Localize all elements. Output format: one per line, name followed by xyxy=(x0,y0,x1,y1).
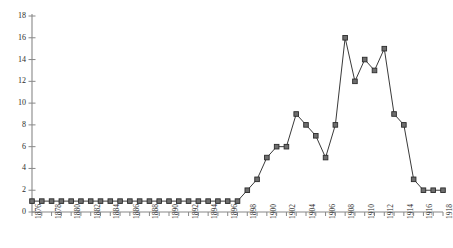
data-point-marker xyxy=(343,35,348,40)
x-tick-label: 1902 xyxy=(289,204,297,219)
data-point-marker xyxy=(98,199,103,204)
data-point-marker xyxy=(216,199,221,204)
x-tick-label: 1886 xyxy=(133,204,141,219)
y-tick-label: 16 xyxy=(6,34,26,42)
data-point-marker xyxy=(206,199,211,204)
data-point-marker xyxy=(225,199,230,204)
data-point-marker xyxy=(128,199,133,204)
x-tick-label: 1898 xyxy=(250,204,258,219)
data-point-marker xyxy=(88,199,93,204)
data-point-marker xyxy=(294,112,299,117)
data-point-marker xyxy=(382,46,387,51)
data-point-marker xyxy=(157,199,162,204)
data-point-marker xyxy=(235,199,240,204)
data-point-marker xyxy=(186,199,191,204)
x-tick-label: 1878 xyxy=(55,204,63,219)
x-tick-label: 1912 xyxy=(387,204,395,219)
data-point-marker xyxy=(108,199,113,204)
data-point-marker xyxy=(362,57,367,62)
data-point-marker xyxy=(313,133,318,138)
data-point-marker xyxy=(167,199,172,204)
data-point-marker xyxy=(39,199,44,204)
x-tick-label: 1904 xyxy=(309,204,317,219)
data-point-marker xyxy=(304,123,309,128)
x-tick-label: 1882 xyxy=(94,204,102,219)
data-point-marker xyxy=(59,199,64,204)
x-tick-label: 1876 xyxy=(35,204,43,219)
data-point-marker xyxy=(196,199,201,204)
data-point-marker xyxy=(323,155,328,160)
x-tick-label: 1906 xyxy=(329,204,337,219)
data-point-marker xyxy=(79,199,84,204)
data-point-marker xyxy=(49,199,54,204)
data-point-marker xyxy=(69,199,74,204)
data-point-marker xyxy=(333,123,338,128)
x-tick-label: 1910 xyxy=(368,204,376,219)
data-point-marker xyxy=(147,199,152,204)
line-chart: 024681012141618 187618781880188218841886… xyxy=(0,0,453,248)
x-tick-label: 1880 xyxy=(74,204,82,219)
data-point-marker xyxy=(30,199,35,204)
data-point-marker xyxy=(245,188,250,193)
y-tick-label: 2 xyxy=(6,186,26,194)
y-tick-label: 12 xyxy=(6,77,26,85)
y-tick-label: 18 xyxy=(6,12,26,20)
x-tick-label: 1916 xyxy=(426,204,434,219)
y-tick-label: 10 xyxy=(6,99,26,107)
data-point-marker xyxy=(274,144,279,149)
y-tick-label: 4 xyxy=(6,164,26,172)
data-point-marker xyxy=(431,188,436,193)
data-point-marker xyxy=(411,177,416,182)
x-tick-label: 1914 xyxy=(407,204,415,219)
x-tick-label: 1908 xyxy=(348,204,356,219)
data-point-marker xyxy=(118,199,123,204)
data-point-marker xyxy=(441,188,446,193)
x-tick-label: 1896 xyxy=(231,204,239,219)
x-tick-label: 1892 xyxy=(192,204,200,219)
data-point-marker xyxy=(402,123,407,128)
x-tick-label: 1890 xyxy=(172,204,180,219)
x-tick-label: 1900 xyxy=(270,204,278,219)
data-point-marker xyxy=(176,199,181,204)
data-line-series xyxy=(32,38,443,201)
y-tick-label: 14 xyxy=(6,56,26,64)
y-tick-label: 0 xyxy=(6,208,26,216)
data-point-marker xyxy=(284,144,289,149)
data-point-marker xyxy=(265,155,270,160)
x-tick-label: 1888 xyxy=(152,204,160,219)
data-point-marker xyxy=(137,199,142,204)
x-tick-label: 1894 xyxy=(211,204,219,219)
y-tick-label: 6 xyxy=(6,143,26,151)
data-point-marker xyxy=(372,68,377,73)
data-point-marker xyxy=(353,79,358,84)
data-point-marker xyxy=(421,188,426,193)
x-tick-label: 1918 xyxy=(446,204,453,219)
data-point-marker xyxy=(255,177,260,182)
x-tick-label: 1884 xyxy=(113,204,121,219)
y-tick-label: 8 xyxy=(6,121,26,129)
data-point-marker xyxy=(392,112,397,117)
